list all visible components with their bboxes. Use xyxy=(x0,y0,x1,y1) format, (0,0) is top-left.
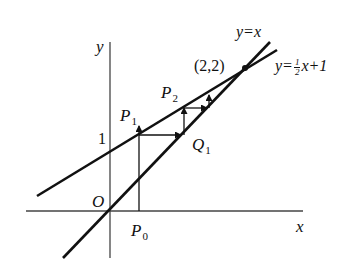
line-y-half-x-plus-1 xyxy=(37,50,277,196)
line-label-half-x-plus-1: y=12x+1 xyxy=(275,58,327,77)
fraction-half: 12 xyxy=(294,58,301,77)
point-index: 2 xyxy=(172,92,178,104)
y-axis-label: y xyxy=(96,38,104,55)
intersection-point xyxy=(242,65,248,71)
line-label-prefix: y= xyxy=(275,57,293,74)
point-index: 1 xyxy=(205,144,211,156)
point-letter: P xyxy=(131,221,141,240)
point-label-p0: P0 xyxy=(131,222,148,239)
point-index: 1 xyxy=(131,115,137,127)
fraction-denominator: 2 xyxy=(294,68,301,77)
line-label-y-equals-x: y=x xyxy=(236,24,261,40)
line-label-suffix: x+1 xyxy=(301,57,327,74)
point-label-p1: P1 xyxy=(120,107,137,124)
point-letter: Q xyxy=(192,135,204,154)
point-label-q1: Q1 xyxy=(192,136,211,153)
point-label-p2: P2 xyxy=(161,84,178,101)
cobweb-diagram: y x O 1 y=x y=12x+1 (2,2) P0 P1 P2 Q1 xyxy=(0,0,354,272)
x-axis-label: x xyxy=(296,218,304,235)
y-tick-label: 1 xyxy=(98,131,106,147)
origin-label: O xyxy=(92,193,104,210)
point-letter: P xyxy=(161,83,171,102)
point-index: 0 xyxy=(142,230,148,242)
point-letter: P xyxy=(120,106,130,125)
intersection-label: (2,2) xyxy=(194,58,225,74)
